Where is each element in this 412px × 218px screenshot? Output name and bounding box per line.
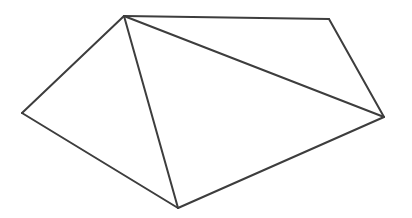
figure-canvas (0, 0, 412, 218)
figure-faces (22, 16, 384, 208)
geometric-figure-svg (0, 0, 412, 218)
